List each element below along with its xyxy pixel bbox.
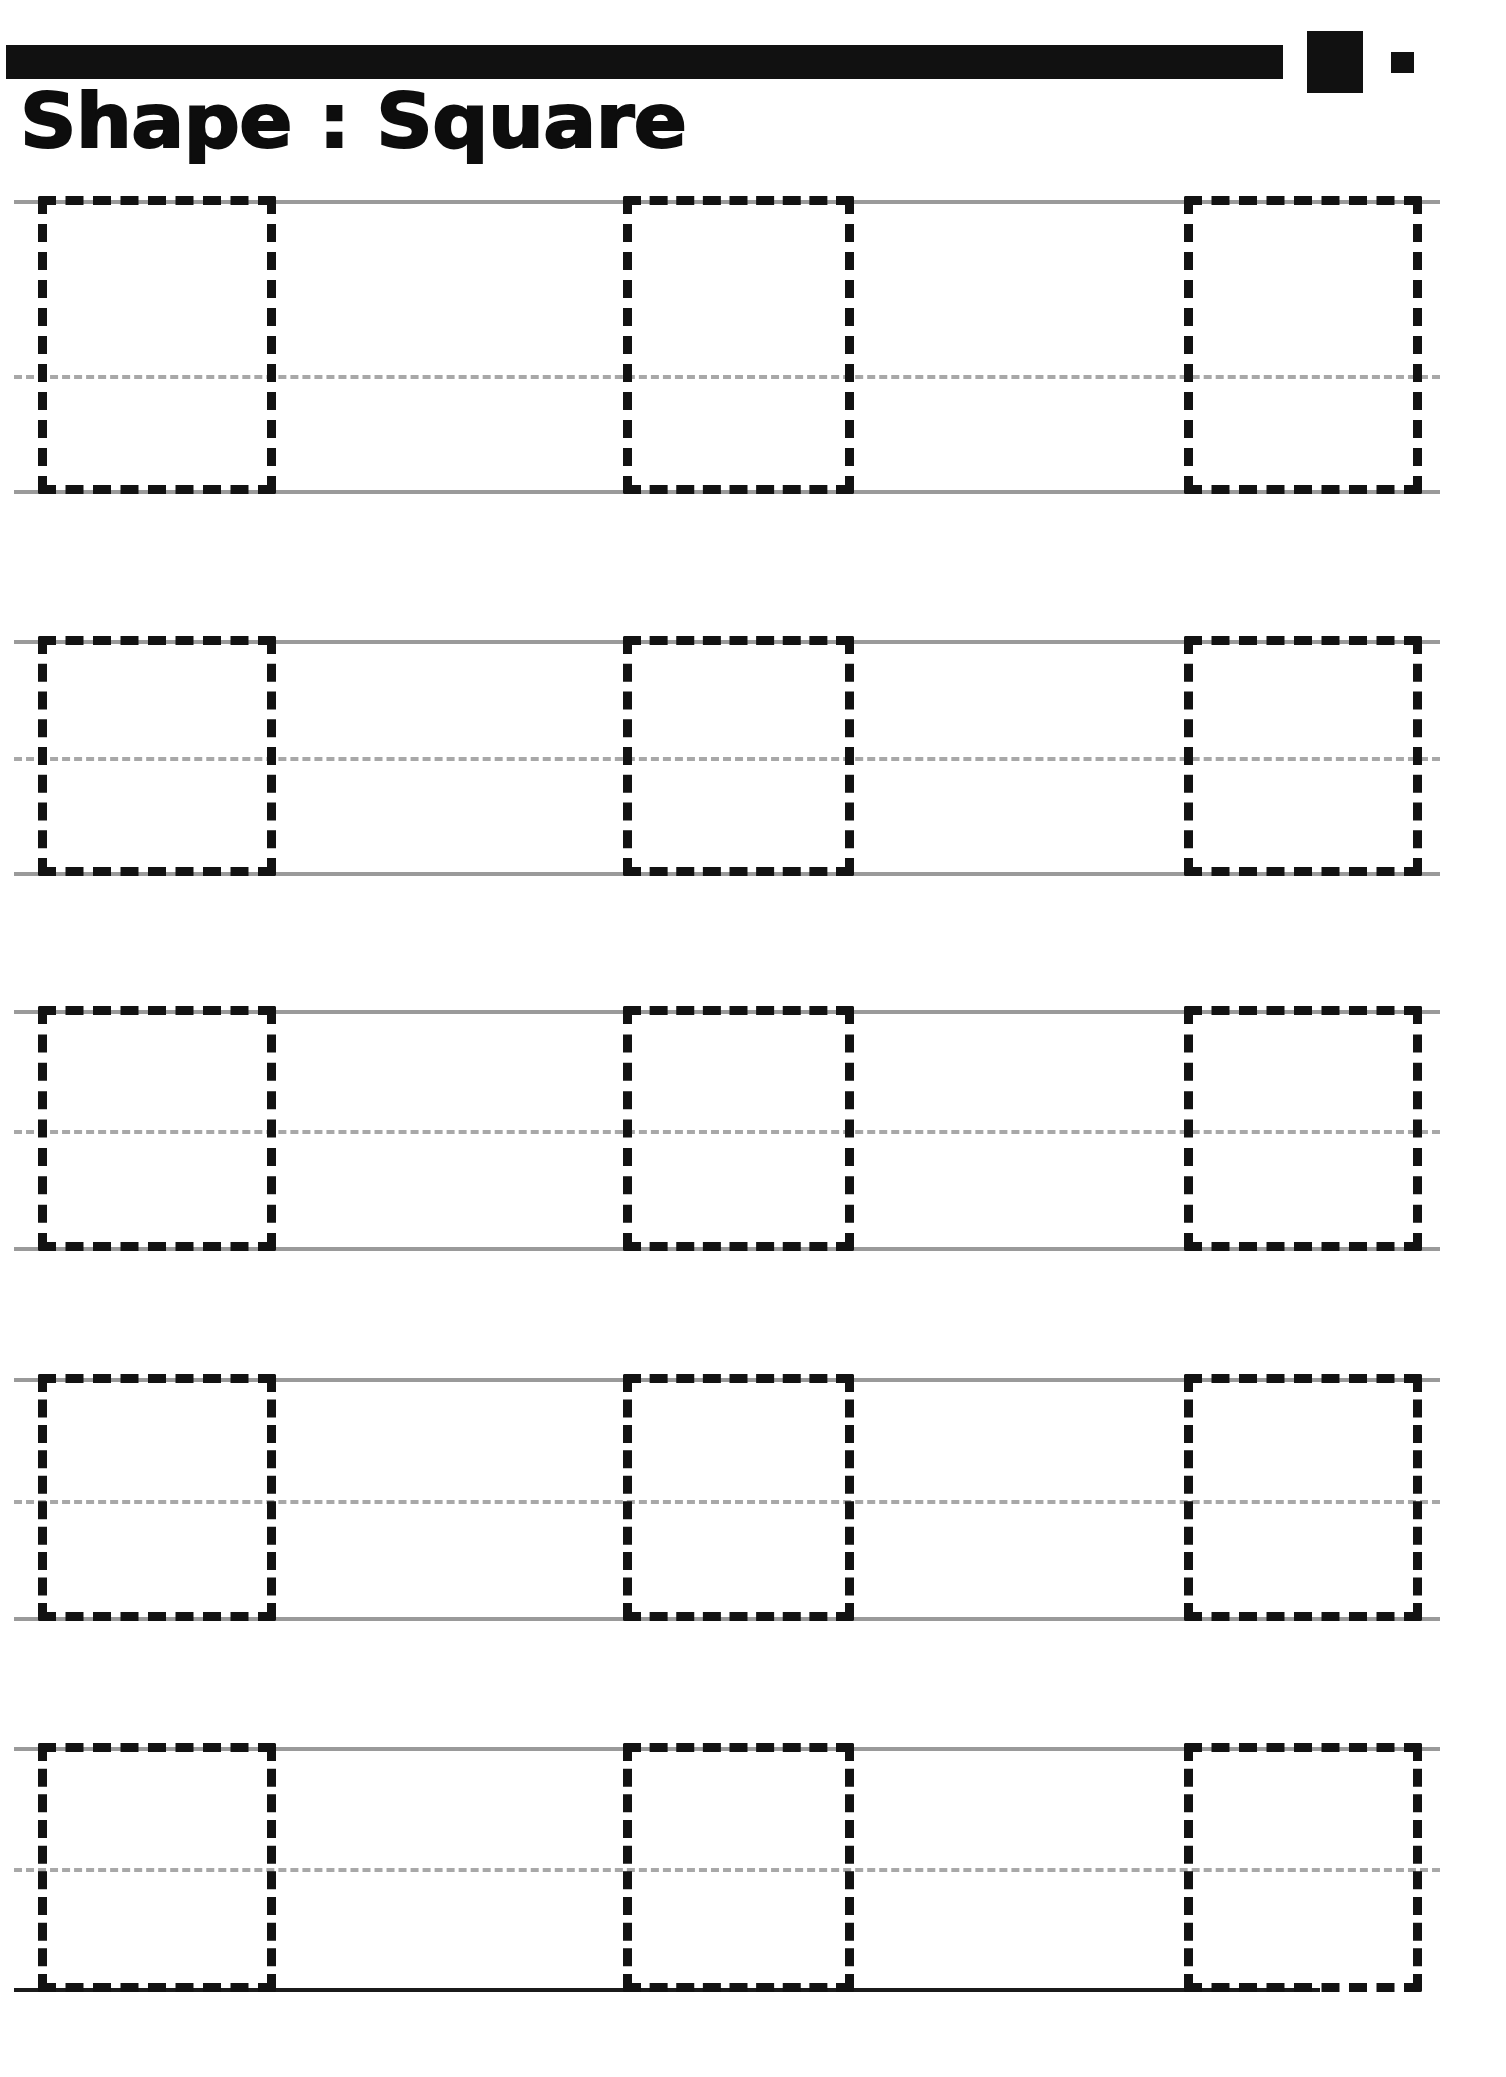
trace-square[interactable]: [38, 196, 276, 494]
trace-square[interactable]: [623, 1006, 854, 1251]
trace-square[interactable]: [38, 1374, 276, 1621]
header-bar-decoration: [6, 45, 1283, 79]
trace-square[interactable]: [38, 1743, 276, 1992]
page-title: Shape : Square: [20, 84, 686, 158]
trace-square[interactable]: [38, 636, 276, 876]
trace-square[interactable]: [1184, 1006, 1422, 1251]
trace-square[interactable]: [623, 196, 854, 494]
trace-square[interactable]: [1184, 1374, 1422, 1621]
trace-square[interactable]: [623, 636, 854, 876]
trace-square[interactable]: [1184, 196, 1422, 494]
header-square-small-icon: [1391, 52, 1414, 73]
trace-square[interactable]: [623, 1743, 854, 1992]
trace-square[interactable]: [1184, 1743, 1422, 1992]
trace-square[interactable]: [1184, 636, 1422, 876]
trace-square[interactable]: [623, 1374, 854, 1621]
worksheet-page: Shape : Square: [0, 0, 1506, 2077]
header-square-large-icon: [1307, 31, 1363, 93]
trace-square[interactable]: [38, 1006, 276, 1251]
